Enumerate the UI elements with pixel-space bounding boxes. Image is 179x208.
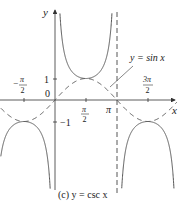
csc-chart: y x 1 0 −1 − π 2 π 2 π 3π 2 y = sin x (c… <box>0 0 179 208</box>
csc-branch-left <box>1 122 50 189</box>
svg-text:−: − <box>13 78 18 88</box>
caption: (c) y = csc x <box>58 189 108 201</box>
csc-branch-right <box>122 122 174 189</box>
svg-text:2: 2 <box>146 86 150 95</box>
x-tick-half-pi: π 2 <box>81 105 89 124</box>
y-axis-label: y <box>42 6 48 18</box>
annotation-pointer <box>110 66 133 87</box>
curves <box>1 13 177 188</box>
y-tick-neg1: −1 <box>60 117 71 128</box>
x-tick-neg-half-pi: − π 2 <box>13 75 27 95</box>
svg-text:2: 2 <box>83 115 87 124</box>
x-tick-pi: π <box>106 104 112 115</box>
svg-text:2: 2 <box>21 86 25 95</box>
y-tick-1: 1 <box>44 74 49 85</box>
y-tick-0: 0 <box>45 88 50 99</box>
x-axis-label: x <box>171 104 177 116</box>
svg-text:π: π <box>82 105 87 114</box>
csc-branch-middle <box>60 13 112 78</box>
svg-text:3π: 3π <box>142 75 152 84</box>
x-tick-three-half-pi: 3π 2 <box>142 75 153 95</box>
annotation-sin: y = sin x <box>129 52 165 63</box>
svg-text:π: π <box>20 75 25 84</box>
